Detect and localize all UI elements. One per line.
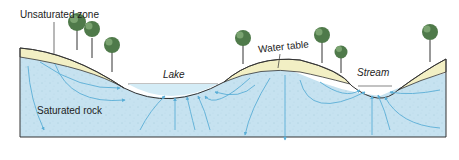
groundwater-diagram [0,0,459,160]
tree-icon [314,27,330,63]
tree-icon [104,37,120,72]
tree-icon [335,46,348,74]
unsaturated-zone-label: Unsaturated zone [20,10,99,20]
saturated-rock-label: Saturated rock [37,106,102,116]
tree-icon [235,30,251,64]
tree-icon [422,24,438,62]
trees [68,13,438,73]
tree-icon [84,21,100,58]
stream-label: Stream [357,68,389,78]
lake-label: Lake [163,70,185,80]
